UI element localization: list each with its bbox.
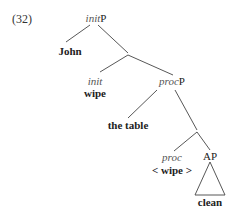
node-initP-suffix: P — [100, 12, 106, 24]
node-AP: AP — [203, 151, 217, 162]
node-initP: initP — [86, 13, 107, 24]
node-proc: proc — [162, 152, 182, 163]
node-wipe: wipe — [84, 88, 106, 99]
node-wipe-trace: < wipe > — [152, 165, 192, 176]
node-procP-italic: proc — [159, 75, 179, 87]
node-initP-italic: init — [86, 12, 101, 24]
node-john: John — [58, 46, 81, 57]
node-the-table: the table — [108, 120, 149, 131]
tree-branches — [0, 0, 236, 217]
node-clean: clean — [198, 197, 222, 208]
node-procP-suffix: P — [179, 75, 185, 87]
node-init: init — [88, 76, 103, 87]
node-procP: procP — [159, 76, 185, 87]
